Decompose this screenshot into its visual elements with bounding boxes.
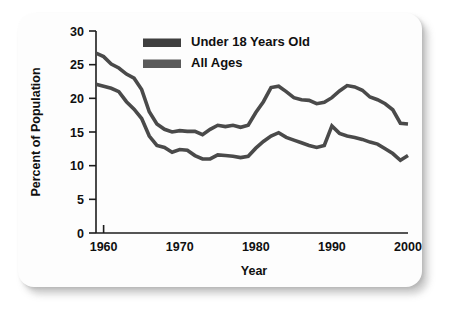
- legend-label-0: Under 18 Years Old: [191, 34, 310, 49]
- y-tick-label-10: 10: [70, 159, 84, 173]
- y-tick-label-25: 25: [70, 58, 84, 72]
- x-axis-ticks: 19601970198019902000: [90, 225, 422, 254]
- chart-legend: Under 18 Years OldAll Ages: [143, 34, 310, 70]
- x-tick-label-2000: 2000: [394, 240, 422, 254]
- y-tick-label-0: 0: [77, 227, 84, 241]
- legend-swatch-1: [143, 60, 181, 69]
- x-tick-label-1960: 1960: [90, 240, 118, 254]
- chart-plot-area: 051015202530 19601970198019902000 Under …: [18, 13, 422, 287]
- y-tick-label-5: 5: [77, 193, 84, 207]
- y-tick-label-30: 30: [70, 25, 84, 39]
- y-tick-label-15: 15: [70, 126, 84, 140]
- x-axis-title: Year: [241, 264, 268, 278]
- chart-card: 051015202530 19601970198019902000 Under …: [18, 13, 422, 287]
- line-chart: 051015202530 19601970198019902000 Under …: [18, 13, 422, 287]
- x-tick-label-1990: 1990: [318, 240, 346, 254]
- y-axis-ticks: 051015202530: [70, 25, 96, 241]
- legend-swatch-0: [143, 39, 181, 48]
- legend-label-1: All Ages: [191, 55, 243, 70]
- y-axis-title: Percent of Population: [29, 67, 43, 196]
- x-tick-label-1980: 1980: [242, 240, 270, 254]
- x-tick-label-1970: 1970: [166, 240, 194, 254]
- screenshot-root: 051015202530 19601970198019902000 Under …: [0, 0, 449, 312]
- y-tick-label-20: 20: [70, 92, 84, 106]
- series-lines: [96, 53, 408, 160]
